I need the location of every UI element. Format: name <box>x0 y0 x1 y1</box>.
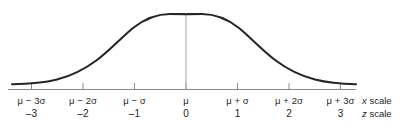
bell-curve-path <box>12 14 356 84</box>
normal-distribution-figure: μ − 3σ μ − 2σ μ − σ μ μ + σ μ + 2σ μ + 3… <box>0 0 403 130</box>
distribution-plot <box>0 0 403 130</box>
